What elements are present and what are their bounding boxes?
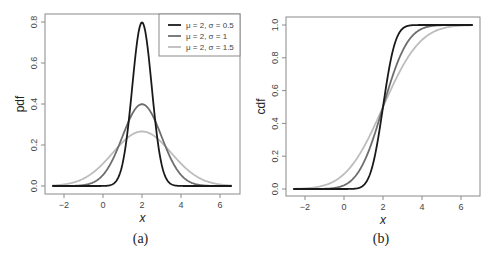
x-tick-label: −2 [59,200,69,210]
cdf-plot-panel: −202460.00.20.40.60.81.0xcdf(b) [254,17,480,247]
x-tick-label: 2 [139,200,144,210]
y-tick-label: 0.4 [29,98,39,111]
y-tick-label: 0.0 [270,183,280,196]
series-line [293,25,472,189]
panel-label: (b) [373,231,390,247]
figure: −202460.00.20.40.60.8xpdf(a)μ = 2, σ = 0… [0,0,496,255]
y-tick-label: 0.4 [270,117,280,130]
x-axis-title: x [379,213,387,227]
y-tick-label: 0.0 [29,180,39,193]
x-axis-title: x [139,211,147,225]
y-tick-label: 0.6 [29,57,39,70]
pdf-plot-panel: −202460.00.20.40.60.8xpdf(a)μ = 2, σ = 0… [13,14,240,247]
legend: μ = 2, σ = 0.5μ = 2, σ = 1μ = 2, σ = 1.5 [159,14,240,56]
y-tick-label: 0.8 [29,16,39,29]
legend-entry: μ = 2, σ = 0.5 [186,21,234,30]
x-tick-label: 2 [380,202,385,212]
x-tick-label: 4 [178,200,183,210]
x-tick-label: 6 [458,202,463,212]
y-axis-title: pdf [13,95,27,112]
legend-entry: μ = 2, σ = 1 [186,32,228,41]
legend-entry: μ = 2, σ = 1.5 [186,43,234,52]
y-tick-label: 0.2 [270,150,280,163]
x-tick-label: 0 [341,202,346,212]
series-line [52,104,231,186]
panel-label: (a) [133,231,149,247]
x-tick-label: −2 [300,202,310,212]
x-tick-label: 6 [217,200,222,210]
y-tick-label: 1.0 [270,19,280,32]
x-tick-label: 4 [419,202,424,212]
y-axis-title: cdf [254,98,268,115]
y-tick-label: 0.6 [270,84,280,97]
x-tick-label: 0 [100,200,105,210]
y-tick-label: 0.2 [29,139,39,152]
series-line [52,131,231,185]
y-tick-label: 0.8 [270,52,280,65]
